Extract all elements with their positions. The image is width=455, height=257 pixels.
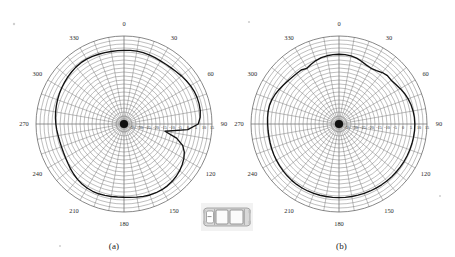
radial-label-neg15: -15 [376, 125, 381, 130]
radial-label-0: 0 [402, 125, 404, 130]
panel-a: 0306090120150180210240270300330 -35-30-2… [0, 0, 228, 257]
radial-label-10: 10 [202, 125, 206, 130]
angle-label-150: 150 [169, 207, 179, 214]
radial-label-neg20: -20 [368, 125, 373, 130]
panel-b: 0306090120150180210240270300330 -35-30-2… [228, 0, 455, 257]
radial-label-5: 5 [410, 125, 412, 130]
angle-label-150: 150 [384, 207, 394, 214]
radial-label-neg30: -30 [137, 125, 142, 130]
radial-label-15: 15 [425, 125, 429, 130]
angle-label-60: 60 [422, 70, 428, 77]
radial-label-neg10: -10 [384, 125, 389, 130]
angle-label-0: 0 [122, 20, 125, 27]
polar-pattern-figure: 0306090120150180210240270300330 -35-30-2… [0, 0, 455, 257]
angle-label-270: 270 [234, 120, 244, 127]
angle-label-120: 120 [206, 170, 216, 177]
angle-label-180: 180 [119, 220, 129, 227]
radial-label-neg25: -25 [145, 125, 150, 130]
angle-label-210: 210 [284, 207, 294, 214]
angle-label-300: 300 [248, 70, 258, 77]
radial-tick-labels-a: -35-30-25-20-15-10-5051015 [129, 125, 214, 130]
angle-label-120: 120 [421, 170, 431, 177]
radial-tick-labels-b: -35-30-25-20-15-10-5051015 [344, 125, 429, 130]
angle-label-0: 0 [337, 20, 340, 27]
radial-label-5: 5 [195, 125, 197, 130]
angle-label-330: 330 [284, 34, 294, 41]
radial-label-15: 15 [210, 125, 214, 130]
car-top-view-icon [201, 203, 253, 231]
radial-label-neg5: -5 [178, 125, 181, 130]
radial-label-neg35: -35 [344, 125, 349, 130]
angle-label-90: 90 [436, 120, 442, 127]
angle-label-180: 180 [334, 220, 344, 227]
angle-label-60: 60 [207, 70, 213, 77]
caption-a: (a) [0, 241, 228, 251]
angle-label-30: 30 [386, 34, 392, 41]
radial-label-neg30: -30 [352, 125, 357, 130]
angle-label-240: 240 [248, 170, 258, 177]
angle-label-90: 90 [221, 120, 227, 127]
radial-label-10: 10 [417, 125, 421, 130]
radial-label-neg15: -15 [161, 125, 166, 130]
polar-plot-b: 0306090120150180210240270300330 -35-30-2… [228, 0, 455, 240]
radial-label-0: 0 [187, 125, 189, 130]
angle-label-300: 300 [33, 70, 43, 77]
radial-label-neg5: -5 [393, 125, 396, 130]
polar-plot-a: 0306090120150180210240270300330 -35-30-2… [0, 0, 228, 240]
angle-label-210: 210 [69, 207, 79, 214]
angle-label-30: 30 [171, 34, 177, 41]
caption-b: (b) [228, 241, 455, 251]
radial-label-neg20: -20 [153, 125, 158, 130]
angle-label-240: 240 [33, 170, 43, 177]
angle-label-330: 330 [69, 34, 79, 41]
radial-label-neg10: -10 [169, 125, 174, 130]
radial-label-neg25: -25 [360, 125, 365, 130]
radial-label-neg35: -35 [129, 125, 134, 130]
angle-label-270: 270 [19, 120, 29, 127]
